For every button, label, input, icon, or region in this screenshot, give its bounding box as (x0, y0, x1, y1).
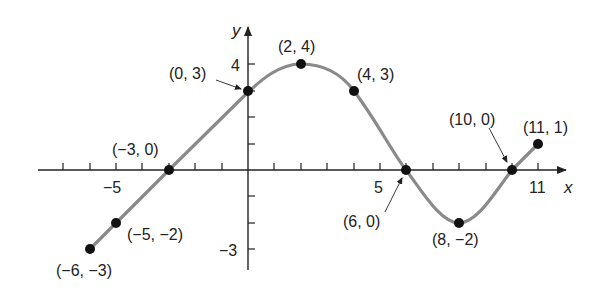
point-label-11-1: (11, 1) (523, 119, 568, 136)
point-4-3 (349, 86, 359, 96)
y-axis-label: y (231, 21, 242, 40)
point-neg5-neg2 (111, 218, 121, 228)
point-11-1 (533, 139, 543, 149)
leader-arrow-0-3 (216, 80, 241, 89)
point-neg3-0 (164, 165, 174, 175)
leader-arrow-6-0 (385, 178, 402, 212)
y-tick-label-neg3: −3 (219, 242, 237, 259)
x-tick-label-5: 5 (374, 179, 383, 196)
point-0-3 (243, 86, 253, 96)
point-2-4 (296, 59, 306, 69)
y-tick-label-4: 4 (231, 57, 240, 74)
point-label-8-neg2: (8, −2) (432, 231, 479, 248)
x-tick-label-11: 11 (529, 179, 546, 196)
function-graph: −5 5 11 4 −3 x y (−6, −3) (−5, −2) (−3, … (0, 0, 600, 301)
point-8-neg2 (454, 218, 464, 228)
point-6-0 (401, 165, 411, 175)
leader-arrow-10-0 (489, 128, 507, 162)
point-label-neg3-0: (−3, 0) (112, 141, 159, 158)
point-label-0-3: (0, 3) (169, 65, 206, 82)
x-ticks (63, 163, 538, 170)
point-neg6-neg3 (85, 244, 95, 254)
point-label-2-4: (2, 4) (278, 38, 315, 55)
point-label-6-0: (6, 0) (343, 213, 380, 230)
point-label-10-0: (10, 0) (449, 111, 495, 128)
point-10-0 (507, 165, 517, 175)
point-label-neg5-neg2: (−5, −2) (127, 226, 183, 243)
point-label-4-3: (4, 3) (357, 66, 394, 83)
x-axis-label: x (563, 178, 573, 197)
point-label-neg6-neg3: (−6, −3) (56, 262, 112, 279)
x-tick-label-neg5: −5 (103, 179, 121, 196)
